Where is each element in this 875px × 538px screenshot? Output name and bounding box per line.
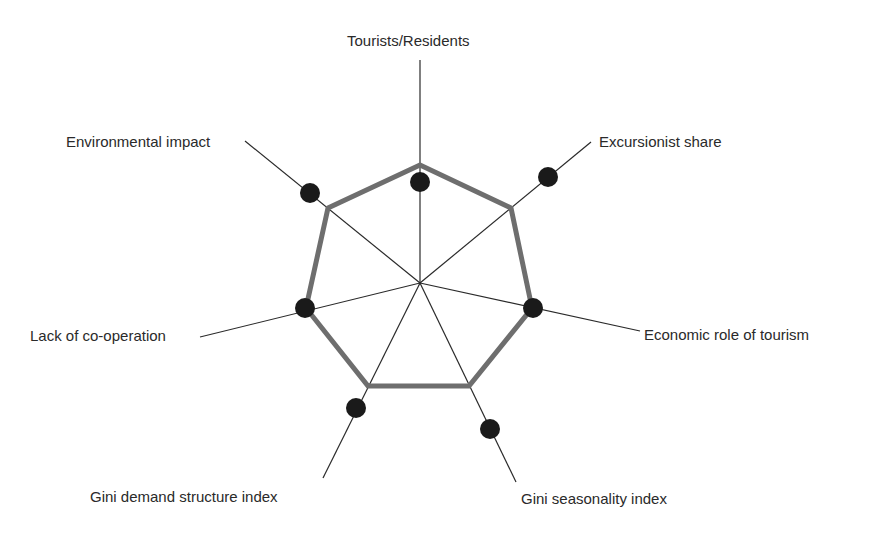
point-environmental-impact: [300, 183, 320, 203]
label-tourists-residents: Tourists/Residents: [347, 32, 470, 50]
axis-gini-demand: [323, 283, 420, 478]
point-gini-seasonality: [480, 419, 500, 439]
data-points: [295, 167, 558, 439]
point-economic-role: [523, 298, 543, 318]
label-gini-seasonality: Gini seasonality index: [521, 490, 667, 508]
label-gini-demand: Gini demand structure index: [90, 488, 278, 506]
label-economic-role: Economic role of tourism: [644, 326, 809, 344]
label-excursionist-share: Excursionist share: [599, 133, 722, 151]
reference-polygon: [306, 165, 532, 386]
point-excursionist-share: [538, 167, 558, 187]
point-lack-cooperation: [295, 298, 315, 318]
label-environmental-impact: Environmental impact: [66, 133, 210, 151]
point-tourists-residents: [410, 172, 430, 192]
label-lack-cooperation: Lack of co-operation: [30, 327, 166, 345]
radar-chart: [0, 0, 875, 538]
axis-excursionist-share: [420, 142, 591, 283]
axis-spokes: [200, 60, 640, 482]
axis-gini-seasonality: [420, 283, 516, 482]
point-gini-demand: [346, 398, 366, 418]
axis-environmental-impact: [245, 141, 420, 283]
